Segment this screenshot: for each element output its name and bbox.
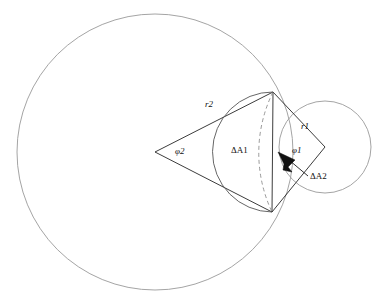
label-phi2: φ2 <box>175 147 184 156</box>
chord-line <box>272 92 273 212</box>
label-phi1: φ1 <box>292 146 301 155</box>
label-r1: r1 <box>301 122 309 131</box>
diagram-canvas <box>0 0 385 302</box>
label-delta-a2: ΔA2 <box>310 172 327 181</box>
dashed-arc-delta-a1 <box>259 92 273 212</box>
radius-r1-upper-line <box>273 92 325 147</box>
label-delta-a1: ΔA1 <box>231 146 248 155</box>
geometry-diagram: r2 r1 φ2 φ1 ΔA1 ΔA2 <box>0 0 385 302</box>
label-r2: r2 <box>205 100 213 109</box>
radius-r2-upper-line <box>155 92 273 152</box>
